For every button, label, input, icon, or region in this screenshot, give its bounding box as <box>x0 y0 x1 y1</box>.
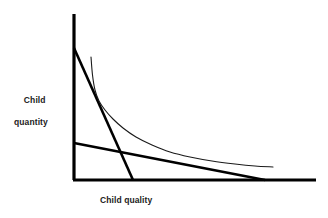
economics-figure: Child quantity Child quality <box>0 0 328 218</box>
x-axis-label: Child quality <box>100 196 152 205</box>
y-axis-label-line1: Child <box>24 95 46 105</box>
steep-budget-line <box>74 48 133 180</box>
flat-budget-line <box>74 143 265 180</box>
plot-area <box>0 0 328 218</box>
y-axis-label-line2: quantity <box>14 118 48 127</box>
y-axis-label: Child quantity <box>14 87 48 143</box>
